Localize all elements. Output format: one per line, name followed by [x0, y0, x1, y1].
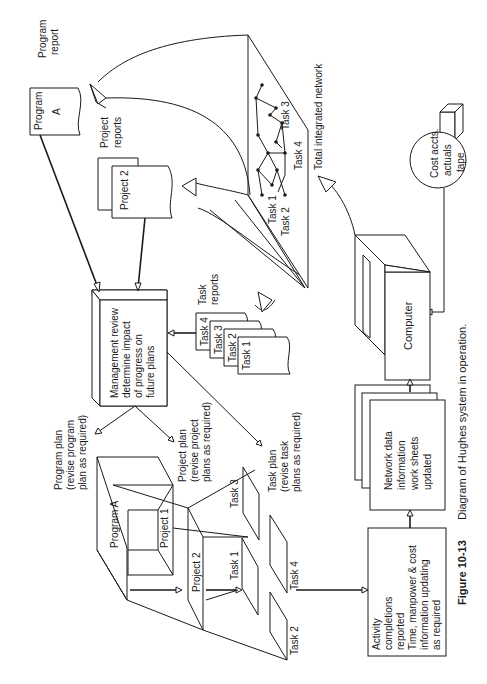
task-plan-line-2: (revise task — [279, 440, 290, 492]
task-reports-documents: Task 4 Task 3 Task 2 Task 1 — [196, 313, 290, 374]
network-task-3: Task 3 — [280, 101, 291, 130]
project-plan-line-2: (revise project — [189, 419, 200, 482]
project-reports-caption-1: Project — [99, 117, 110, 148]
activity-completions-box: Activity completions reported Time, manp… — [368, 528, 446, 656]
network-data-line-3: work sheets — [409, 437, 420, 491]
activity-line-5: information updating — [419, 559, 430, 650]
management-line-1: Management review — [109, 307, 120, 398]
activity-line-4: Time, manpower & cost — [407, 545, 418, 650]
program-report-document: Program A — [30, 88, 81, 135]
project-reports-documents: Project 2 — [98, 158, 172, 218]
project-plan-line-1: Project plan — [177, 429, 188, 482]
program-report-caption-2: report — [49, 29, 60, 55]
arrowhead-program-to-project — [176, 587, 182, 593]
plan-project-1: Project 1 — [159, 508, 170, 548]
plan-project-2: Project 2 — [191, 552, 202, 592]
program-report-label-2: A — [51, 108, 62, 115]
project-1-plane: Project 1 — [113, 485, 188, 575]
program-plan-line-1: Program plan — [53, 430, 64, 490]
arrow-project-report-to-review — [138, 218, 145, 288]
network-data-line-1: Network data — [383, 431, 394, 490]
task-report-1: Task 1 — [241, 341, 252, 370]
program-plan-line-3: plan as required) — [77, 415, 88, 490]
management-line-4: future plans — [145, 346, 156, 398]
program-report-caption-1: Program — [37, 20, 48, 58]
cost-tape-line-2: actuals — [442, 144, 453, 176]
plan-task-2: Task 2 — [289, 626, 300, 655]
plan-task-3: Task 3 — [229, 479, 240, 508]
arrow-program-report-to-review — [40, 135, 98, 288]
project-plan-line-3: plans as required) — [201, 402, 212, 482]
arrowhead-tasks-to-activity — [362, 587, 368, 593]
task-report-4: Task 4 — [199, 317, 210, 346]
task-reports-caption-1: Task — [197, 283, 208, 305]
network-task-2: Task 2 — [280, 207, 291, 236]
figure-caption: Diagram of Hughes system in operation. — [456, 324, 468, 520]
management-line-2: determine impact — [121, 321, 132, 398]
activity-line-3: reported — [395, 613, 406, 650]
activity-line-1: Activity — [371, 618, 382, 650]
integrated-network-caption: Total integrated network — [313, 63, 324, 170]
activity-line-6: as required — [431, 600, 442, 650]
network-graph — [254, 83, 287, 197]
network-task-1: Task 1 — [267, 195, 278, 224]
computer-label: Computer — [402, 301, 414, 350]
network-data-line-4: updated — [422, 454, 433, 490]
arrow-review-to-project-plan — [135, 406, 172, 440]
task-reports-caption-2: reports — [209, 274, 220, 305]
computer-block: Computer — [355, 235, 430, 380]
network-data-line-2: information — [396, 441, 407, 490]
hughes-system-diagram: Program A Program report Project reports… — [0, 0, 487, 684]
cost-tape-line-1: Cost accts. — [429, 129, 440, 178]
project-reports-caption-2: reports — [112, 117, 123, 148]
figure-number: Figure 10-13 — [456, 540, 468, 605]
arrow-review-to-program-plan — [98, 406, 135, 432]
task-plan-line-3: plans as required) — [291, 412, 302, 492]
program-plan-line-2: (revise program — [65, 420, 76, 490]
management-review-box: Management review determine impact of pr… — [92, 290, 167, 406]
task-report-3: Task 3 — [213, 325, 224, 354]
plan-task-1: Task 1 — [229, 551, 240, 580]
task-planes: Task 1 Task 2 Task 3 Task 4 — [203, 467, 300, 660]
activity-line-2: completions — [383, 597, 394, 650]
network-task-4: Task 4 — [293, 141, 304, 170]
plan-task-4: Task 4 — [289, 561, 300, 590]
task-report-2: Task 2 — [227, 333, 238, 362]
cost-tape-reel: Cost accts. actuals tape — [410, 104, 466, 188]
cost-tape-line-3: tape — [455, 152, 466, 172]
plan-program-a: Program A — [109, 500, 120, 548]
task-plan-line-1: Task plan — [267, 450, 278, 492]
network-data-worksheets: Network data information work sheets upd… — [355, 385, 445, 510]
project-report-label: Project 2 — [119, 170, 130, 210]
management-line-3: of progress on — [133, 334, 144, 398]
arrowhead-activity-to-network — [407, 510, 413, 516]
program-report-label-1: Program — [33, 92, 44, 130]
